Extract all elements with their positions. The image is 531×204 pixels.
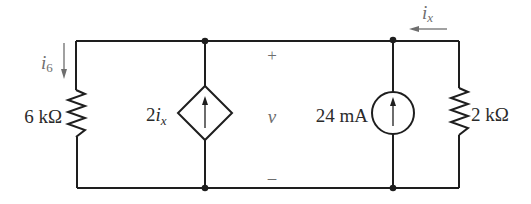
ix-current-arrow bbox=[409, 26, 447, 32]
ix-label: ix bbox=[422, 2, 433, 25]
i6-label: i6 bbox=[41, 52, 53, 75]
left-arrow-icon bbox=[409, 26, 419, 32]
node-dot bbox=[390, 185, 397, 192]
dependent-current-source bbox=[178, 86, 232, 140]
resistor-2k-label: 2 kΩ bbox=[471, 104, 509, 125]
resistor-6k bbox=[68, 90, 85, 137]
resistor-2k bbox=[451, 88, 468, 135]
resistor-6k-label: 6 kΩ bbox=[24, 106, 62, 127]
voltage-label: v bbox=[268, 106, 277, 127]
independent-current-source bbox=[372, 92, 414, 134]
arrowhead-icon bbox=[202, 96, 208, 105]
circuit-diagram: i6 ix 6 kΩ 2ix 24 mA 2 kΩ + v – bbox=[0, 0, 531, 204]
voltage-minus: – bbox=[267, 168, 277, 187]
voltage-plus: + bbox=[267, 46, 277, 65]
node-dot bbox=[202, 38, 209, 45]
node-dot bbox=[390, 37, 397, 44]
node-dot bbox=[202, 185, 209, 192]
arrowhead-icon bbox=[390, 97, 396, 106]
i6-current-arrow bbox=[61, 43, 67, 79]
down-arrow-icon bbox=[61, 69, 67, 79]
current-source-label: 24 mA bbox=[316, 105, 369, 126]
dependent-source-label: 2ix bbox=[146, 104, 167, 128]
